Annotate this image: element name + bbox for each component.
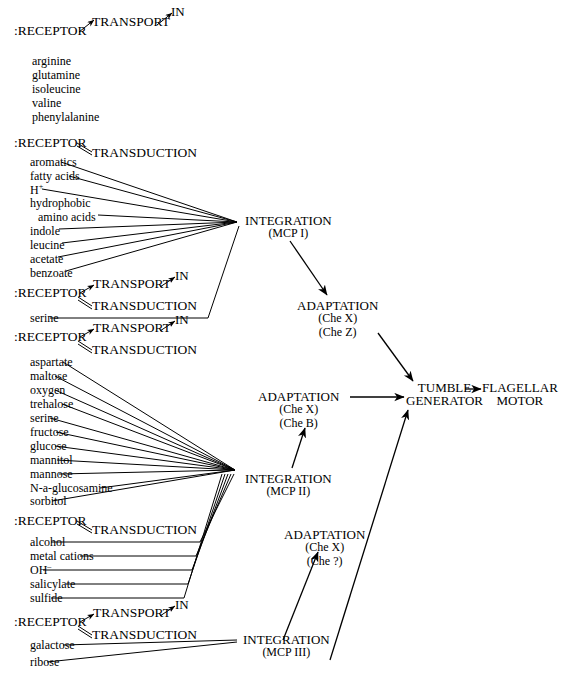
ligand-item: maltose bbox=[30, 370, 67, 382]
transduction-label-group-6: TRANSDUCTION bbox=[92, 628, 197, 642]
ligand-item: fructose bbox=[30, 426, 69, 438]
ligand-item: alcohol bbox=[30, 536, 65, 548]
node-tumble-generator: TUMBLE GENERATOR bbox=[406, 381, 483, 409]
transport-label-group-3: TRANSPORT bbox=[93, 277, 171, 291]
node-line-1: (Che X) bbox=[297, 312, 378, 326]
node-line-1: (Che X) bbox=[284, 541, 365, 555]
receptor-label-group-5: :RECEPTOR bbox=[14, 514, 87, 528]
ligand-item: arginine bbox=[32, 55, 71, 67]
receptor-label-group-6: :RECEPTOR bbox=[14, 615, 87, 629]
node-integration-mcp-2: INTEGRATION (MCP II) bbox=[245, 472, 332, 499]
ligand-item-h-plus: H+H+ bbox=[30, 183, 43, 196]
transduction-label-group-5: TRANSDUCTION bbox=[92, 523, 197, 537]
node-line-2: (Che Z) bbox=[297, 326, 378, 340]
node-line-2: (Che B) bbox=[258, 417, 339, 431]
ligand-item: indole bbox=[30, 225, 60, 237]
node-line-2: GENERATOR bbox=[406, 394, 483, 409]
node-line-2: (Che ?) bbox=[284, 555, 365, 569]
ligand-item: leucine bbox=[30, 239, 65, 251]
node-integration-mcp-3: INTEGRATION (MCP III) bbox=[243, 633, 330, 660]
ligand-item: aspartate bbox=[30, 356, 73, 368]
ligand-item: N-a-glucosamine bbox=[30, 482, 113, 494]
ligand-item: glucose bbox=[30, 440, 67, 452]
in-label-group-6: IN bbox=[175, 598, 189, 611]
ligand-item: acetate bbox=[30, 253, 63, 265]
in-label-group-4: IN bbox=[175, 313, 189, 326]
node-subtitle: (MCP II) bbox=[245, 485, 332, 499]
ligand-item: sulfide bbox=[30, 592, 63, 604]
transduction-label-group-4: TRANSDUCTION bbox=[92, 343, 197, 357]
ligand-item: isoleucine bbox=[32, 83, 81, 95]
node-line-1: (Che X) bbox=[258, 403, 339, 417]
in-label-group-3: IN bbox=[175, 269, 189, 282]
transport-label-group-1: TRANSPORT bbox=[92, 15, 170, 29]
transduction-label-group-3: TRANSDUCTION bbox=[92, 299, 197, 313]
ligand-item: metal cations bbox=[30, 550, 94, 562]
transport-label-group-6: TRANSPORT bbox=[93, 606, 171, 620]
receptor-label-group-1: :RECEPTOR bbox=[14, 24, 87, 38]
ligand-item: oxygen bbox=[30, 384, 65, 396]
node-subtitle: (MCP III) bbox=[243, 646, 330, 660]
ligand-item: trehalose bbox=[30, 398, 73, 410]
ligand-item: amino acids bbox=[38, 211, 96, 223]
ligand-item: benzoate bbox=[30, 267, 73, 279]
node-adaptation-1: ADAPTATION (Che X) (Che Z) bbox=[297, 299, 378, 340]
ligand-item: hydrophobic bbox=[30, 197, 91, 209]
in-label-group-1: IN bbox=[171, 5, 185, 18]
node-adaptation-2: ADAPTATION (Che X) (Che B) bbox=[258, 390, 339, 431]
node-subtitle: (MCP I) bbox=[245, 227, 332, 241]
ligand-item: serine bbox=[30, 412, 59, 424]
ligand-item-hydroxide: OH-OH– bbox=[30, 563, 51, 576]
ligand-item: phenylalanine bbox=[32, 111, 99, 123]
node-integration-mcp-1: INTEGRATION (MCP I) bbox=[245, 214, 332, 241]
node-flagellar-motor: FLAGELLAR MOTOR bbox=[482, 381, 558, 409]
transduction-label-group-2: TRANSDUCTION bbox=[92, 146, 197, 160]
receptor-label-group-2: :RECEPTOR bbox=[14, 136, 87, 150]
ligand-item: fatty acids bbox=[30, 170, 80, 182]
ligand-item: glutamine bbox=[32, 69, 80, 81]
ligand-item: mannose bbox=[30, 468, 73, 480]
node-line-2: MOTOR bbox=[482, 394, 558, 409]
node-adaptation-3: ADAPTATION (Che X) (Che ?) bbox=[284, 528, 365, 569]
receptor-label-group-3: :RECEPTOR bbox=[14, 286, 87, 300]
receptor-label-group-4: :RECEPTOR bbox=[14, 330, 87, 344]
ligand-item: valine bbox=[32, 97, 61, 109]
ligand-item: galactose bbox=[30, 639, 75, 651]
ligand-item: ribose bbox=[30, 656, 59, 668]
ligand-item: serine bbox=[30, 312, 59, 324]
transport-label-group-4: TRANSPORT bbox=[93, 321, 171, 335]
ligand-item: mannitol bbox=[30, 454, 73, 466]
ligand-item: salicylate bbox=[30, 578, 75, 590]
ligand-item: aromatics bbox=[30, 156, 77, 168]
ligand-item: sorbitol bbox=[30, 495, 67, 507]
